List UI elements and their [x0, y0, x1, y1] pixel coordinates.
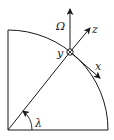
- latitude-label: λ: [34, 117, 42, 130]
- y-axis-into-page-icon: [67, 49, 73, 55]
- earth-frame-diagram: Ω z y x λ: [0, 0, 114, 140]
- y-axis-label: y: [56, 47, 64, 60]
- z-axis-label: z: [91, 23, 98, 36]
- omega-label: Ω: [55, 20, 65, 33]
- x-axis-label: x: [95, 60, 102, 73]
- latitude-angle-arc: [23, 111, 32, 130]
- z-axis-arrow: [70, 28, 90, 52]
- earth-quarter-outline: [8, 30, 108, 130]
